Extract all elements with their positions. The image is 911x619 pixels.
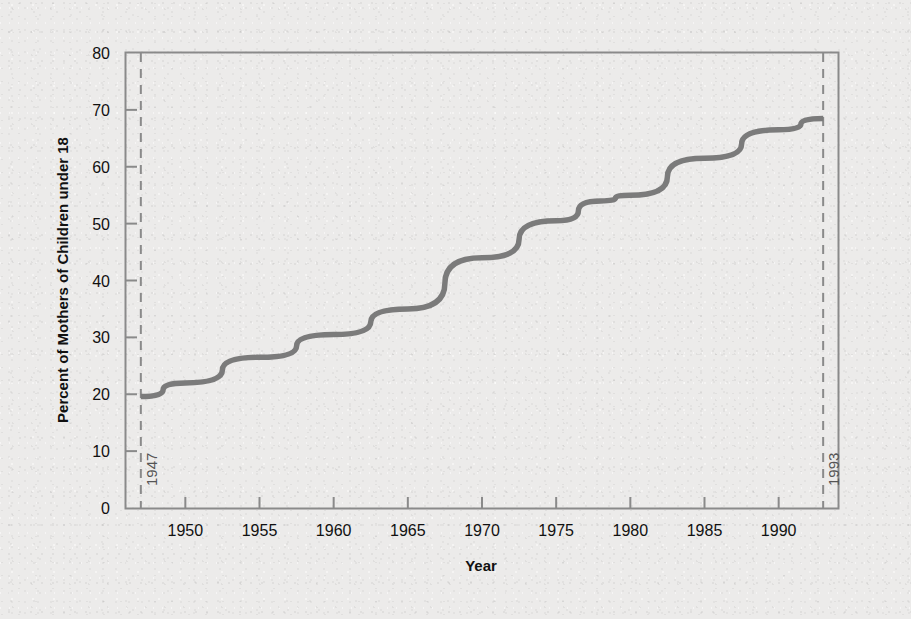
y-tick-label-60: 60 bbox=[92, 159, 110, 176]
y-axis-ticks bbox=[126, 110, 137, 451]
x-tick-label-1965: 1965 bbox=[390, 522, 426, 539]
x-axis-title: Year bbox=[465, 557, 497, 574]
y-tick-label-0: 0 bbox=[101, 500, 110, 517]
y-tick-label-40: 40 bbox=[92, 273, 110, 290]
y-tick-label-70: 70 bbox=[92, 102, 110, 119]
x-tick-label-1975: 1975 bbox=[538, 522, 574, 539]
y-axis-title: Percent of Mothers of Children under 18 bbox=[54, 137, 71, 423]
x-tick-label-1970: 1970 bbox=[464, 522, 500, 539]
x-tick-label-1980: 1980 bbox=[613, 522, 649, 539]
x-tick-label-1985: 1985 bbox=[687, 522, 723, 539]
x-tick-label-1960: 1960 bbox=[316, 522, 352, 539]
start-marker-label: 1947 bbox=[143, 453, 160, 486]
y-tick-label-30: 30 bbox=[92, 329, 110, 346]
x-tick-label-1955: 1955 bbox=[242, 522, 278, 539]
x-tick-label-1990: 1990 bbox=[761, 522, 797, 539]
annotation-labels: 19471993 bbox=[143, 453, 842, 486]
plot-frame bbox=[126, 53, 839, 509]
x-tick-label-1950: 1950 bbox=[168, 522, 204, 539]
y-tick-label-50: 50 bbox=[92, 216, 110, 233]
chart-figure: 01020304050607080 1950195519601965197019… bbox=[0, 0, 911, 619]
end-marker-label: 1993 bbox=[825, 453, 842, 486]
y-tick-label-20: 20 bbox=[92, 386, 110, 403]
line-chart-svg: 01020304050607080 1950195519601965197019… bbox=[0, 0, 911, 619]
x-axis-tick-labels: 195019551960196519701975198019851990 bbox=[168, 522, 797, 539]
x-axis-ticks bbox=[185, 497, 778, 508]
y-tick-label-80: 80 bbox=[92, 45, 110, 62]
annotation-dashed-lines bbox=[141, 53, 823, 508]
data-series-line bbox=[141, 118, 823, 396]
y-axis-tick-labels: 01020304050607080 bbox=[92, 45, 110, 517]
y-tick-label-10: 10 bbox=[92, 443, 110, 460]
